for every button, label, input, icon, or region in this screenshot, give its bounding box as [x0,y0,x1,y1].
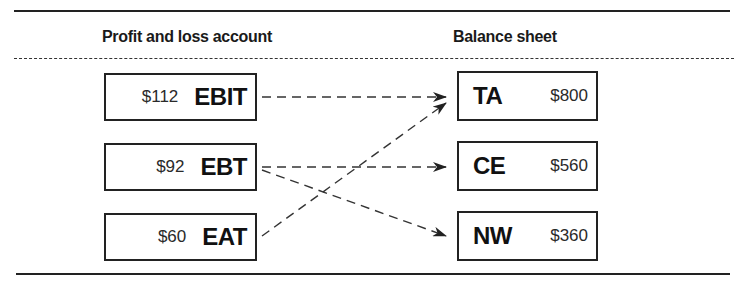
bottom-rule [16,273,730,275]
arrow-ebt-to-nw [262,170,446,236]
arrow-eat-to-ta [262,103,446,236]
connection-arrows [0,0,741,287]
